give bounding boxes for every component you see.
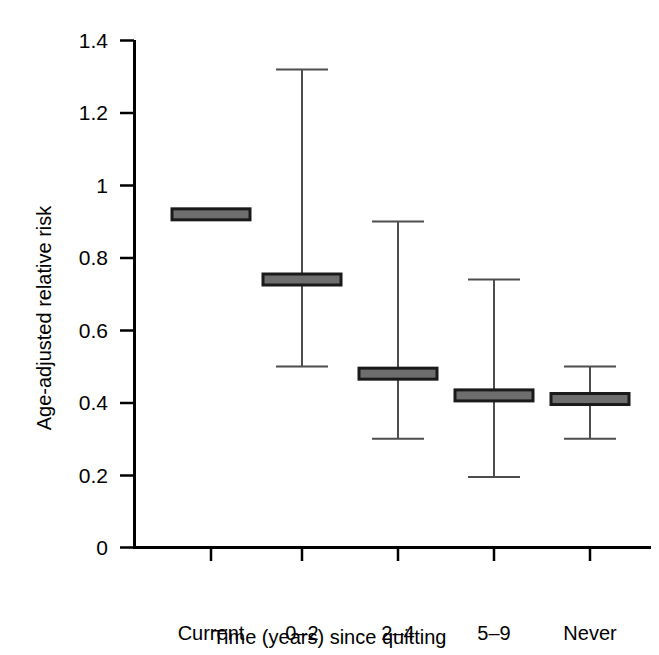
axis-lines (133, 40, 651, 548)
x-axis-ticks (211, 548, 590, 561)
y-tick-label-1_4: 1.4 (34, 30, 108, 51)
y-tick-label-0: 0 (34, 537, 108, 558)
point-estimate-marker (359, 368, 437, 379)
point-estimate-marker (455, 390, 533, 401)
y-axis-title: Age-adjusted relative risk (34, 108, 54, 528)
data-marks (172, 69, 629, 476)
x-axis-title: Time (years) since quitting (0, 627, 659, 647)
y-axis-ticks (120, 41, 134, 548)
point-estimate-marker (551, 394, 629, 405)
chart-figure: 1.4 1.2 1 0.8 0.6 0.4 0.2 0 Current smok… (0, 0, 659, 655)
point-estimate-marker (172, 209, 250, 220)
point-estimate-marker (263, 274, 341, 285)
